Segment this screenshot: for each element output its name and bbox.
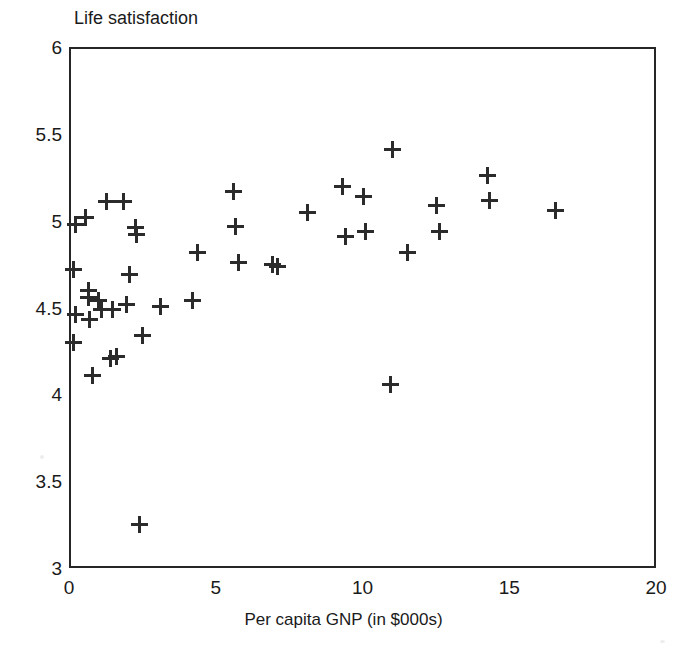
y-tick-label: 5.5	[0, 124, 62, 143]
data-point-marker	[134, 327, 151, 344]
data-point-marker	[230, 254, 247, 271]
data-point-marker	[81, 311, 98, 328]
data-point-marker	[479, 167, 496, 184]
data-point-marker	[152, 298, 169, 315]
data-point-marker	[225, 183, 242, 200]
data-point-marker	[357, 223, 374, 240]
data-point-marker	[77, 209, 94, 226]
data-point-marker	[131, 516, 148, 533]
data-point-marker	[67, 306, 84, 323]
data-point-marker	[80, 289, 97, 306]
data-point-marker	[431, 223, 448, 240]
data-point-marker	[65, 261, 82, 278]
data-point-marker	[337, 228, 354, 245]
y-tick-label: 3.5	[0, 472, 62, 491]
data-point-marker	[67, 216, 84, 233]
y-axis-tick-labels: 33.544.555.56	[0, 0, 62, 655]
data-point-marker	[428, 197, 445, 214]
data-point-marker	[84, 367, 101, 384]
y-tick-label: 4.5	[0, 298, 62, 317]
x-axis-title: Per capita GNP (in $000s)	[0, 611, 687, 628]
data-point-marker	[65, 334, 82, 351]
data-point-marker	[90, 292, 107, 309]
data-point-marker	[384, 141, 401, 158]
y-axis-title: Life satisfaction	[74, 9, 198, 27]
data-point-marker	[128, 226, 145, 243]
y-tick-label: 3	[0, 559, 62, 578]
data-point-marker	[115, 193, 132, 210]
data-point-marker	[121, 266, 138, 283]
data-point-marker	[547, 202, 564, 219]
data-point-marker	[264, 256, 281, 273]
x-tick-label: 10	[323, 578, 403, 597]
data-point-marker	[481, 192, 498, 209]
data-point-marker	[98, 193, 115, 210]
x-tick-label: 15	[469, 578, 549, 597]
y-tick-label: 4	[0, 385, 62, 404]
scatter-plot-figure: Life satisfaction 33.544.555.56 05101520…	[0, 0, 687, 655]
scan-speckle	[660, 640, 665, 643]
data-point-marker	[399, 244, 416, 261]
data-point-marker	[93, 301, 110, 318]
x-tick-label: 0	[29, 578, 109, 597]
data-point-marker	[299, 204, 316, 221]
data-point-marker	[80, 282, 97, 299]
data-point-marker	[227, 218, 244, 235]
data-point-marker	[382, 376, 399, 393]
x-tick-label: 5	[176, 578, 256, 597]
data-point-marker	[102, 350, 119, 367]
data-point-marker	[118, 296, 135, 313]
data-point-marker	[127, 219, 144, 236]
data-point-marker	[108, 348, 125, 365]
plot-area	[69, 47, 656, 568]
data-point-marker	[184, 292, 201, 309]
data-point-marker	[189, 244, 206, 261]
data-point-marker	[269, 258, 286, 275]
y-tick-label: 5	[0, 211, 62, 230]
data-point-marker	[355, 188, 372, 205]
y-tick-label: 6	[0, 38, 62, 57]
x-tick-label: 20	[616, 578, 687, 597]
data-point-marker	[334, 178, 351, 195]
data-point-marker	[104, 301, 121, 318]
